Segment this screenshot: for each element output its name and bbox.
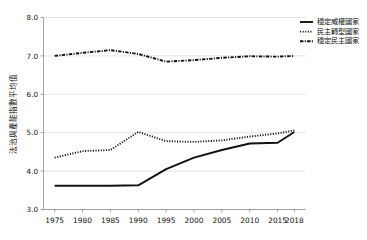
gridlines	[44, 18, 306, 210]
y-tick-label: 7.0	[27, 52, 39, 61]
y-axis-title: 法治與產能指數平均值	[8, 74, 18, 154]
x-tick-label: 1985	[101, 216, 120, 225]
series-group	[55, 50, 295, 186]
chart-canvas: 3.04.05.06.07.08.0 197519801985199019952…	[0, 0, 367, 240]
y-tick-label: 4.0	[27, 167, 39, 176]
x-axis: 1975198019851990199520002005201020152018	[44, 210, 306, 225]
x-tick-label: 1990	[129, 216, 148, 225]
line-chart: 3.04.05.06.07.08.0 197519801985199019952…	[0, 0, 367, 240]
x-tick-label: 2005	[212, 216, 231, 225]
y-tick-label: 8.0	[27, 13, 39, 22]
y-tick-label: 6.0	[27, 90, 39, 99]
x-tick-label: 2010	[240, 216, 259, 225]
x-tick-label: 2018	[285, 216, 304, 225]
y-axis: 3.04.05.06.07.08.0	[27, 13, 44, 214]
legend-label-1: 穩定威權國家	[317, 17, 359, 26]
legend-label-3: 穩定民主國家	[317, 36, 359, 45]
x-tick-label: 1975	[45, 216, 64, 225]
x-tick-label: 1980	[73, 216, 92, 225]
legend-label-2: 民主轉型國家	[317, 27, 359, 36]
y-tick-label: 5.0	[27, 128, 39, 137]
x-tick-label: 1995	[157, 216, 176, 225]
y-tick-label: 3.0	[27, 205, 39, 214]
x-tick-label: 2000	[185, 216, 204, 225]
chart-legend: 穩定威權國家民主轉型國家穩定民主國家	[300, 17, 359, 45]
series-line-1	[55, 132, 295, 186]
y-axis-title-group: 法治與產能指數平均值	[8, 74, 18, 154]
